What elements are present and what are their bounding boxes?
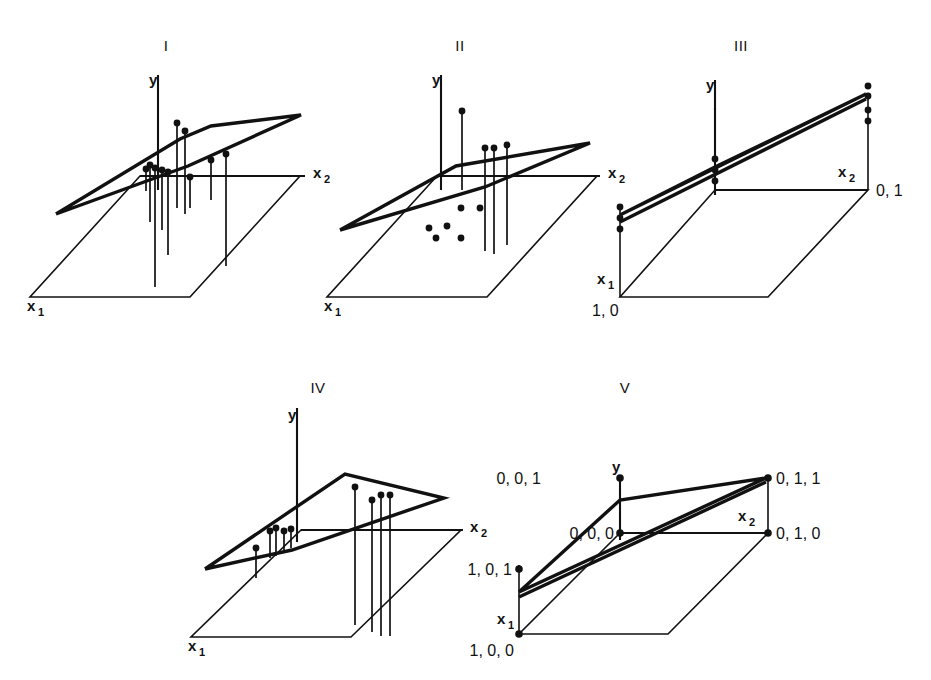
panel-II-point [459, 108, 466, 115]
panel-II-point [458, 235, 465, 242]
panel-II-x1-axis-label: x [324, 297, 333, 314]
panel-V-point [616, 474, 624, 482]
panel-V-y-axis-label: y [612, 458, 621, 475]
panel-I-x1-axis-label: x [27, 297, 36, 314]
panel-V-corner-label-near-base: 1, 0, 0 [470, 642, 515, 659]
panel-V: V y x 1 x 2 0, 0, 1 0, 0, 0 0, [468, 379, 821, 659]
panel-I-point [152, 165, 159, 172]
panel-I-point [143, 166, 150, 173]
panel-III: III y x 1 [592, 37, 903, 319]
panel-IV-point [273, 525, 280, 532]
panel-II-title: II [455, 37, 464, 54]
panel-I-x2-axis-subscript: 2 [324, 173, 330, 185]
panel-V-title: V [620, 379, 631, 396]
panel-V-corner-label-far-top: 0, 1, 1 [776, 470, 821, 487]
panel-II-point [426, 225, 433, 232]
panel-I-point [208, 157, 215, 164]
panel-II-point [458, 205, 465, 212]
panel-V-x2-axis-subscript: 2 [749, 516, 755, 528]
panel-V-corner-label-far-base: 0, 1, 0 [776, 525, 821, 542]
panel-III-x1-axis-subscript: 1 [608, 279, 614, 291]
panel-IV-observations [253, 484, 394, 636]
panel-III-base-plane [620, 190, 868, 297]
panel-IV-point [369, 497, 376, 504]
panel-V-base-plane [519, 533, 768, 634]
panel-II: II y [324, 37, 625, 318]
panel-I-point [187, 174, 194, 181]
panel-III-point [865, 83, 872, 90]
panel-IV-title: IV [310, 379, 325, 396]
panel-II-regression-plane [340, 143, 590, 230]
panel-V-x2-axis-label: x [738, 507, 747, 524]
panel-III-point [617, 215, 624, 222]
panel-III-point [712, 156, 719, 163]
panel-I-x1-axis-subscript: 1 [38, 306, 44, 318]
panel-III-point [617, 204, 624, 211]
panel-IV-regression-plane [205, 474, 444, 569]
panel-III-y-axis-label: y [706, 76, 715, 93]
panel-I-point [223, 151, 230, 158]
panel-IV: IV [188, 379, 487, 658]
panel-IV-x1-axis-subscript: 1 [199, 646, 205, 658]
panel-I-regression-plane [56, 115, 301, 214]
panel-V-point [764, 474, 772, 482]
panel-III-x1-axis-label: x [597, 270, 606, 287]
panel-IV-x2-axis-subscript: 2 [481, 527, 487, 539]
panel-III-corner-label-x1: 1, 0 [592, 302, 619, 319]
panel-III-point [865, 93, 872, 100]
panel-IV-point [387, 492, 394, 499]
panel-IV-point [378, 492, 385, 499]
panel-IV-x2-axis-label: x [470, 518, 479, 535]
panel-V-point [515, 565, 523, 573]
panel-III-point [865, 118, 872, 125]
panel-III-point [712, 167, 719, 174]
panel-IV-base-plane [191, 530, 461, 637]
panel-V-point [616, 529, 624, 537]
panel-III-regression-plane-upper [620, 94, 866, 215]
panel-II-point [482, 145, 489, 152]
panel-V-x1-axis-subscript: 1 [508, 619, 514, 631]
panel-I: I [27, 37, 330, 318]
panel-I-observations [143, 120, 230, 287]
panel-II-y-axis-label: y [432, 71, 441, 88]
panel-IV-point [267, 528, 274, 535]
five-panel-3d-diagram: I [0, 0, 931, 680]
panel-IV-point [281, 528, 288, 535]
panel-III-x2-axis-label: x [838, 163, 847, 180]
panel-IV-point [253, 545, 260, 552]
panel-IV-x1-axis-label: x [188, 637, 197, 654]
panel-II-point [504, 142, 511, 149]
panel-II-point [444, 223, 451, 230]
panel-I-point [165, 169, 172, 176]
panel-I-point [174, 120, 181, 127]
panel-IV-point [352, 484, 359, 491]
panel-II-point [433, 235, 440, 242]
panel-III-point [712, 178, 719, 185]
panel-V-x1-axis-label: x [497, 610, 506, 627]
panel-V-corner-label-origin: 0, 0, 0 [570, 525, 615, 542]
panel-III-corner-label-x2: 0, 1 [876, 182, 903, 199]
panel-III-regression-plane-lower [620, 99, 866, 222]
panel-V-regression-plane-lower [519, 482, 766, 597]
panel-V-point [764, 529, 772, 537]
panel-II-x2-axis-subscript: 2 [619, 173, 625, 185]
panel-I-point [159, 167, 166, 174]
panel-IV-point [288, 526, 295, 533]
panel-III-title: III [734, 37, 748, 54]
panel-I-title: I [164, 37, 169, 54]
panel-III-x2-axis-subscript: 2 [849, 172, 855, 184]
panel-III-point [865, 107, 872, 114]
panel-II-x1-axis-subscript: 1 [335, 306, 341, 318]
panel-II-point [477, 205, 484, 212]
figure-root: I [0, 0, 931, 680]
panel-V-regression-plane-upper [519, 478, 766, 592]
panel-III-observations [617, 83, 872, 233]
panel-I-base-plane [30, 176, 300, 297]
panel-I-y-axis-label: y [149, 71, 158, 88]
panel-II-point [491, 145, 498, 152]
panel-V-corner-label-near-top: 1, 0, 1 [468, 561, 513, 578]
panel-I-point [182, 128, 189, 135]
panel-III-point [617, 226, 624, 233]
panel-I-x2-axis-label: x [313, 164, 322, 181]
panel-II-x2-axis-label: x [608, 164, 617, 181]
